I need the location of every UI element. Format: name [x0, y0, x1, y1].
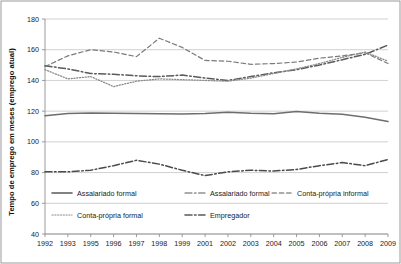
x-tick-label: 1995	[83, 239, 99, 248]
x-tick-label: 2007	[334, 239, 350, 248]
y-axis-title: Tempo de emprego em meses (emprego atual…	[7, 48, 16, 216]
y-tick-label: 160	[27, 45, 39, 54]
chart-figure: 406080100120140160180 199219931995199619…	[0, 0, 401, 264]
x-tick-label: 1997	[128, 239, 144, 248]
y-tick-label: 80	[31, 168, 39, 177]
x-tick-label: 2002	[220, 239, 236, 248]
legend-label: Conta-própria formal	[77, 211, 143, 220]
y-tick-label: 180	[27, 15, 39, 24]
y-tick-label: 40	[31, 230, 39, 239]
chart-frame	[1, 1, 400, 263]
x-tick-label: 2001	[197, 239, 213, 248]
x-tick-label: 2009	[380, 239, 396, 248]
y-tick-label: 60	[31, 199, 39, 208]
legend-label: Assalariado formal	[210, 189, 270, 198]
line-chart: 406080100120140160180 199219931995199619…	[0, 0, 401, 264]
legend-label: Assalariado formal	[77, 189, 137, 198]
legend-label: Conta-própria informal	[297, 189, 369, 198]
x-tick-label: 2005	[289, 239, 305, 248]
x-tick-label: 1993	[60, 239, 76, 248]
y-tick-label: 100	[27, 137, 39, 146]
x-tick-label: 1992	[37, 239, 53, 248]
legend-label: Empregador	[210, 211, 250, 220]
x-tick-label: 2003	[243, 239, 259, 248]
x-tick-label: 2006	[311, 239, 327, 248]
x-tick-label: 2004	[266, 239, 282, 248]
y-tick-label: 120	[27, 107, 39, 116]
x-tick-label: 1999	[174, 239, 190, 248]
x-tick-label: 2008	[357, 239, 373, 248]
x-tick-label: 1996	[106, 239, 122, 248]
x-tick-label: 1998	[151, 239, 167, 248]
y-tick-label: 140	[27, 76, 39, 85]
